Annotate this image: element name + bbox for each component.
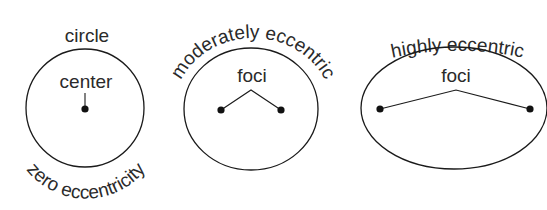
high-focus-right xyxy=(526,105,533,112)
moderate-ellipse-panel: moderately eccentric foci xyxy=(166,21,340,170)
circle-title: circle xyxy=(65,25,109,46)
moderate-focus-right xyxy=(277,106,284,113)
center-dot xyxy=(81,105,88,112)
high-focus-left xyxy=(376,105,383,112)
high-ellipse-panel: highly eccentric foci xyxy=(361,34,547,169)
moderate-foci-label: foci xyxy=(237,65,267,86)
moderate-foci-pointer xyxy=(221,90,281,110)
circle-panel: circle center zero eccentricity xyxy=(23,25,149,203)
high-foci-pointer xyxy=(380,90,530,109)
high-foci-label: foci xyxy=(441,65,471,86)
moderate-focus-left xyxy=(217,106,224,113)
eccentricity-diagram: circle center zero eccentricity moderate… xyxy=(0,0,547,210)
center-label: center xyxy=(60,71,113,92)
zero-eccentricity-label: zero eccentricity xyxy=(23,158,149,203)
